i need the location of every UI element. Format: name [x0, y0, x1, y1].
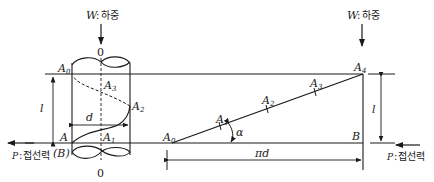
cyl-point-a: A [59, 131, 68, 144]
circumference-label: πd [254, 147, 269, 160]
diagram-canvas: W : 하중 0 d A0 A3 A2 A1 A (B) [0, 0, 434, 182]
force-label-right: 접선력 [398, 151, 425, 162]
load-label-left: 하중 [101, 9, 119, 21]
cyl-point-a2: A2 [131, 100, 145, 114]
dev-point-a0: A0 [162, 131, 176, 145]
force-symbol-left: P [11, 151, 19, 161]
dev-point-a3: A3 [309, 77, 323, 91]
force-label-left: 접선력 [23, 150, 50, 161]
load-label-right: 하중 [362, 9, 380, 21]
cyl-point-b-alt: (B) [53, 147, 70, 160]
cyl-point-a1: A1 [102, 131, 115, 145]
force-symbol-right: P [386, 152, 394, 162]
diameter-label: d [86, 111, 93, 124]
force-separator-left: : [19, 150, 22, 161]
helix-hypotenuse [172, 74, 363, 143]
dev-point-a1: A1 [215, 113, 228, 127]
right-load-indicator: W : 하중 [347, 9, 380, 46]
axis-label-top: 0 [97, 46, 104, 59]
cyl-point-a0: A0 [57, 62, 71, 76]
angle-arc [229, 124, 233, 142]
helix-back [73, 76, 130, 106]
right-force-indicator: P : 접선력 [386, 145, 425, 162]
cylinder: d A0 A3 A2 A1 A (B) 0 [53, 57, 145, 180]
screw-thread-diagram: W : 하중 0 d A0 A3 A2 A1 A (B) [0, 0, 434, 182]
dev-point-a2: A2 [261, 94, 275, 108]
left-length-label: l [40, 102, 44, 115]
dev-point-a4: A4 [353, 61, 366, 75]
cyl-point-a3: A3 [103, 79, 117, 93]
force-separator-right: : [394, 151, 397, 162]
left-load-indicator: W : 하중 0 [86, 9, 119, 59]
development: α A0 A1 A2 A3 A4 B πd [162, 61, 366, 170]
right-length-label: l [372, 103, 376, 116]
axis-label-bottom: 0 [97, 167, 104, 180]
load-separator-right: : [357, 10, 360, 21]
left-force-indicator: P : 접선력 [8, 143, 50, 161]
dev-corner-b: B [351, 130, 360, 143]
angle-label: α [236, 126, 244, 139]
load-separator-left: : [96, 10, 99, 21]
